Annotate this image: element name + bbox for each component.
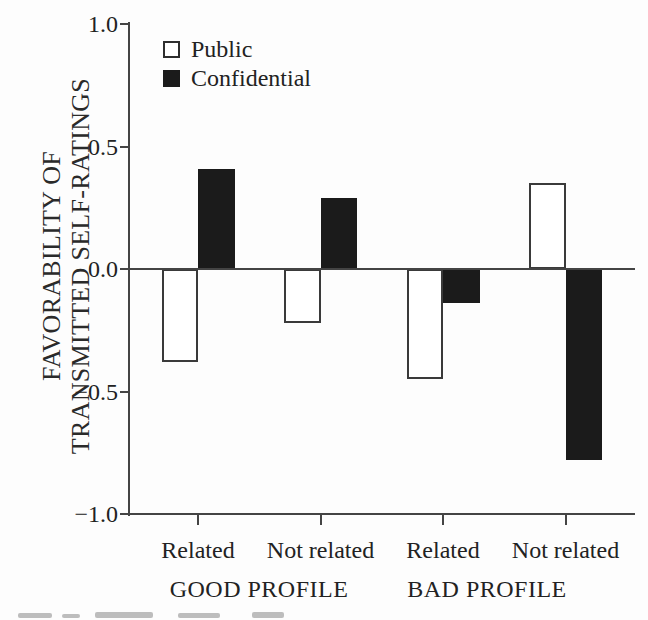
legend: Public Confidential: [163, 40, 311, 98]
bar-confidential-group3: [443, 269, 480, 303]
bar-confidential-group4: [566, 269, 603, 460]
scan-artifact-1: [62, 614, 80, 618]
y-tick-mark-4: [120, 513, 130, 515]
legend-label-confidential: Confidential: [191, 69, 311, 88]
bar-public-group2: [284, 269, 321, 323]
x-tick-mark-0: [197, 514, 199, 525]
bar-public-group3: [407, 269, 444, 379]
y-tick-label-3: −0.5: [52, 378, 118, 406]
scan-artifact-0: [18, 613, 52, 618]
bar-public-group4: [529, 183, 566, 269]
y-tick-mark-0: [120, 23, 130, 25]
legend-item-public: Public: [163, 40, 311, 59]
scan-artifact-2: [95, 612, 153, 618]
legend-item-confidential: Confidential: [163, 69, 311, 88]
profile-label-1: BAD PROFILE: [357, 575, 617, 603]
confidential-swatch-icon: [163, 70, 180, 87]
zero-baseline: [128, 268, 635, 270]
y-tick-label-1: 0.5: [52, 133, 118, 161]
x-category-label-3: Not related: [491, 536, 641, 564]
y-tick-mark-3: [120, 391, 130, 393]
x-tick-mark-1: [320, 514, 322, 525]
x-axis-line: [128, 513, 635, 515]
public-swatch-icon: [163, 41, 180, 58]
bar-confidential-group2: [321, 198, 358, 269]
y-tick-label-4: −1.0: [52, 500, 118, 528]
bar-public-group1: [162, 269, 199, 362]
y-tick-label-0: 1.0: [52, 10, 118, 38]
scan-artifact-3: [178, 613, 220, 618]
y-tick-mark-1: [120, 146, 130, 148]
profile-label-0: GOOD PROFILE: [129, 575, 389, 603]
bar-confidential-group1: [198, 169, 235, 269]
bar-chart-figure: FAVORABILITY OF TRANSMITTED SELF-RATINGS…: [0, 0, 648, 620]
x-tick-mark-2: [442, 514, 444, 525]
scan-artifact-4: [252, 612, 284, 618]
x-tick-mark-3: [565, 514, 567, 525]
legend-label-public: Public: [191, 40, 252, 59]
y-tick-label-2: 0.0: [52, 255, 118, 283]
